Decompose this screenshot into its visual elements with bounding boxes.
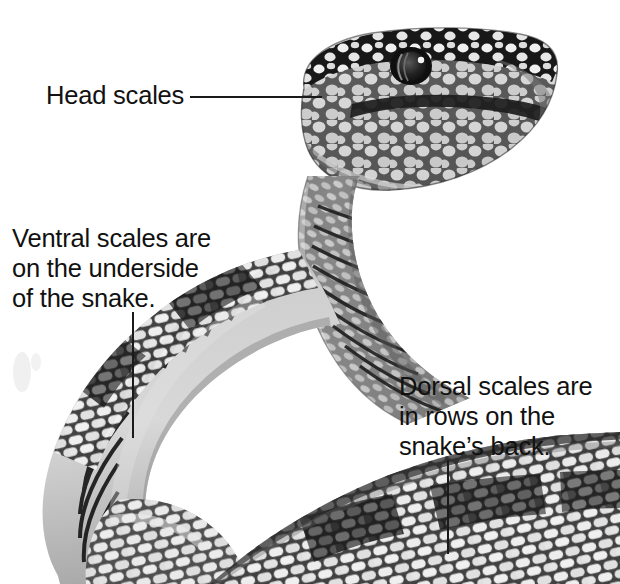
snake-eye xyxy=(390,47,432,85)
callout-head-scales: Head scales xyxy=(46,80,184,110)
snake-anatomy-figure: Head scales Ventral scales are on the un… xyxy=(0,0,620,584)
leader-line-ventral-scales xyxy=(132,312,134,438)
callout-dorsal-scales: Dorsal scales are in rows on the snake’s… xyxy=(399,371,593,461)
leader-line-dorsal-scales xyxy=(447,460,449,554)
callout-ventral-scales: Ventral scales are on the underside of t… xyxy=(12,223,211,313)
scan-artifact xyxy=(13,352,41,392)
leader-line-head-scales xyxy=(190,96,322,98)
